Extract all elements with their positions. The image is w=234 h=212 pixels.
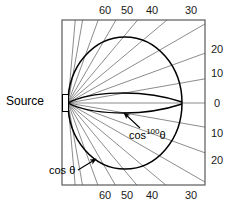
source-label: Source [6,96,44,107]
source-aperture-icon [62,94,69,112]
cos-theta-annotation-symbol: θ [69,164,75,176]
top-axis-label-50: 50 [121,5,133,16]
top-axis-label-60: 60 [99,5,111,16]
bottom-axis-label-50: 50 [121,190,133,201]
cos-100-theta-annotation-exponent: 100 [146,127,159,136]
cos-theta-annotation: cos θ [49,164,75,176]
cos-theta-annotation-base: cos [49,164,66,176]
bottom-axis-label-60: 60 [99,190,111,201]
right-axis-label-20-upper: 20 [211,44,223,55]
cos-100-theta-annotation-base: cos [129,129,146,141]
top-axis-label-40: 40 [146,5,158,16]
bottom-axis-label-40: 40 [146,190,158,201]
right-axis-label-20-lower: 20 [211,155,223,166]
right-axis-label-10-upper: 10 [211,68,223,79]
right-axis-label-10-lower: 10 [211,128,223,139]
bottom-axis-label-30: 30 [185,190,197,201]
top-axis-label-30: 30 [185,5,197,16]
cos-100-theta-annotation-symbol: θ [159,129,165,141]
cos-100-theta-annotation: cos100θ [129,127,166,141]
plot-background [62,20,205,185]
right-axis-label-0: 0 [214,98,220,109]
